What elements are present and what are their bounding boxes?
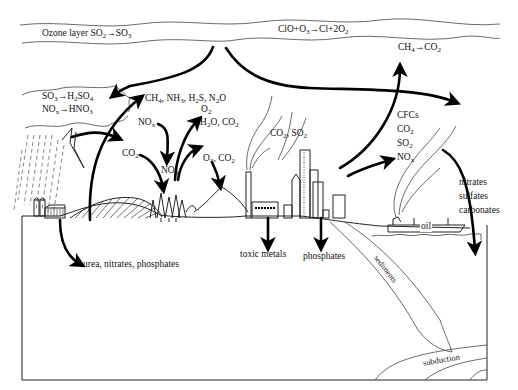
toxic-metals-label: toxic metals: [240, 249, 286, 260]
phosphates-label: phosphates: [303, 251, 345, 262]
co2-label: CO2: [122, 148, 139, 159]
arrow-ozone-to-emissions: [226, 48, 455, 102]
ground-surface: [22, 203, 487, 380]
ozone-layer-label: Ozone layer SO2→SO3: [42, 28, 131, 39]
oil-label: oil: [420, 221, 432, 232]
farm-field-hatched: [70, 197, 162, 218]
arrow-nox-to-forest: [158, 124, 168, 160]
nox-label: NOx: [138, 117, 155, 128]
methane-oxidation-label: CH4→CO2: [398, 42, 441, 53]
arrow-farm-to-groundwater: [60, 220, 80, 264]
farm-runoff-label: urea, nitrates, phosphates: [83, 259, 179, 270]
forest-trees: [150, 193, 196, 222]
arrow-co2-to-forest: [140, 155, 163, 188]
smokestack-emissions-label: CO2, SO2: [270, 128, 307, 139]
diagram-artwork: [0, 0, 518, 390]
arrow-cloud-to-forest: [72, 133, 118, 138]
city-emission-nox: NOx: [397, 152, 414, 163]
ocean-deposit-sulfates: sulfates: [459, 191, 488, 202]
h2o-co2-label: H2O, CO2: [200, 117, 239, 128]
o2-co2-label: O2, CO2: [203, 153, 235, 164]
biogenic-gases-label: CH4, NH3, H2S, N2O: [145, 93, 226, 104]
biogeochemical-cycle-diagram: Ozone layer SO2→SO3 ClO+O3→Cl+2O2 CH4→CO…: [0, 0, 518, 390]
city-emission-so2: SO2: [397, 138, 413, 149]
arrow-ozone-to-rain: [114, 47, 213, 95]
no3-label: NO3: [161, 165, 178, 176]
arrow-field-to-gases: [90, 98, 140, 220]
acid-rain-sulfur-label: SO3→H2SO4: [42, 91, 93, 102]
arrow-gas-to-hill: [212, 162, 220, 185]
ocean-surface: [372, 234, 481, 240]
sediment-layer: [330, 222, 452, 352]
ocean-deposit-carbonates: carbonates: [459, 205, 500, 216]
o2-label: O2: [201, 104, 211, 115]
hill: [194, 187, 248, 212]
ozone-reaction-label: ClO+O3→Cl+2O2: [278, 24, 349, 35]
city-buildings: [284, 150, 345, 218]
city-emission-cfcs: CFCs: [397, 110, 419, 121]
acid-rain-nitrogen-label: NOx→HNO3: [42, 104, 93, 115]
arrow-city-to-methane: [340, 68, 400, 168]
city-emission-co2: CO2: [397, 124, 414, 135]
farm-buildings: [34, 198, 65, 218]
arrow-city-to-cfcs: [348, 160, 390, 176]
ocean-deposit-nitrates: nitrates: [459, 177, 487, 188]
factory: [246, 172, 278, 218]
